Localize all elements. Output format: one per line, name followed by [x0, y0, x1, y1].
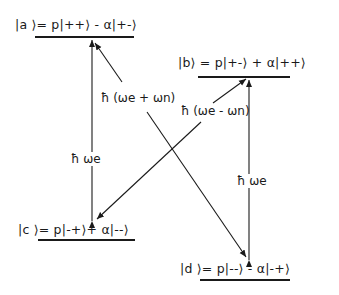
arrow-a-d-lower [147, 112, 246, 257]
state-b-label: |b⟩ = p|+-⟩ + α|++⟩ [178, 55, 306, 70]
arrow-b-c-lower [97, 122, 201, 219]
state-a-label: |a ⟩= p|++⟩ - α|+-⟩ [15, 17, 137, 32]
transition-a-d-label: ħ (ωe + ωn) [101, 91, 175, 105]
transition-b-d-label: ħ ωe [237, 174, 267, 188]
arrow-b-c-upper [213, 79, 246, 103]
state-d-label: |d ⟩= p|--⟩ - α|-+⟩ [180, 261, 290, 276]
transition-b-c-label: ħ (ωe - ωn) [181, 104, 250, 118]
transition-a-c-label: ħ ωe [71, 152, 101, 166]
state-c-label: |c ⟩= p|-+⟩+ α|--⟩ [18, 222, 129, 237]
arrow-a-d-upper [95, 43, 122, 82]
energy-level-diagram [0, 0, 339, 295]
